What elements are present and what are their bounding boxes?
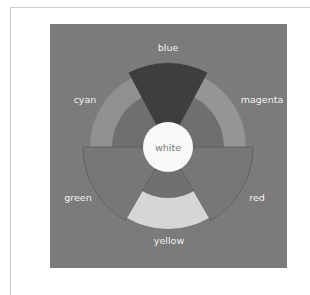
label-green: green [64,192,91,203]
color-wheel-diagram: white blue cyan magenta green red yellow [0,0,310,295]
label-magenta: magenta [241,94,284,105]
label-yellow: yellow [154,235,185,246]
label-white: white [155,142,181,153]
label-red: red [249,192,265,203]
label-cyan: cyan [74,94,97,105]
label-blue: blue [158,42,179,53]
